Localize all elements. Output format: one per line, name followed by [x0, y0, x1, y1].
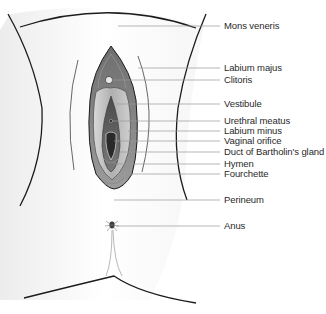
anatomy-illustration: [0, 0, 326, 314]
label-duct-of-bartholin-s-gland: Duct of Bartholin's gland: [224, 147, 324, 157]
clitoris-shape: [105, 76, 112, 83]
label-labium-majus: Labium majus: [224, 63, 282, 73]
label-fourchette: Fourchette: [224, 169, 268, 179]
label-mons-veneris: Mons veneris: [224, 21, 279, 31]
label-vaginal-orifice: Vaginal orifice: [224, 136, 281, 146]
label-vestibule: Vestibule: [224, 99, 262, 109]
label-anus: Anus: [224, 221, 245, 231]
label-perineum: Perineum: [224, 195, 264, 205]
label-clitoris: Clitoris: [224, 75, 252, 85]
